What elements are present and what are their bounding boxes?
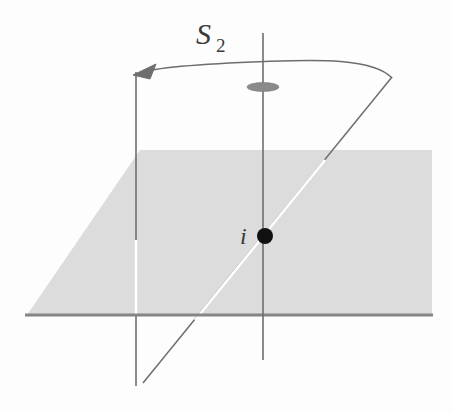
axis-marker-ellipse bbox=[247, 83, 279, 92]
label-point-i: i bbox=[240, 223, 247, 249]
figure-container: S 2 i bbox=[0, 0, 453, 413]
label-symmetry-operation: S bbox=[196, 17, 211, 50]
label-symmetry-order-subscript: 2 bbox=[216, 35, 226, 56]
rotation-arc bbox=[139, 60, 392, 78]
inversion-center-point bbox=[257, 228, 273, 244]
mirror-plane bbox=[27, 150, 432, 315]
geometry-diagram: S 2 i bbox=[0, 0, 453, 413]
